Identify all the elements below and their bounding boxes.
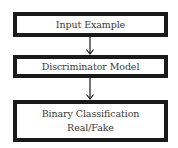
input-example-label: Input Example [56,18,125,32]
discriminator-model-label: Discriminator Model [42,60,140,74]
arrow-input-to-discriminator [87,37,94,54]
arrow-discriminator-to-output [87,78,94,99]
input-example-node: Input Example [13,12,168,37]
binary-classification-label: Binary Classification [42,107,140,121]
discriminator-model-node: Discriminator Model [13,55,168,78]
real-fake-label: Real/Fake [67,121,114,135]
binary-classification-node: Binary Classification Real/Fake [13,100,168,142]
